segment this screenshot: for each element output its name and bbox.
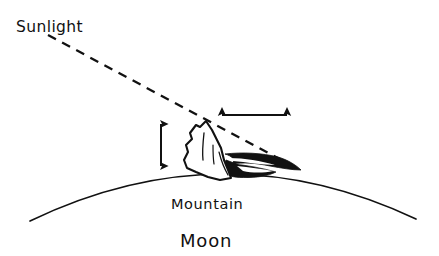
moon-mountain-shadow-diagram: Sunlight Mountain Moon	[0, 0, 439, 256]
diagram-canvas: Sunlight Mountain Moon	[0, 0, 439, 256]
label-mountain: Mountain	[171, 196, 243, 212]
label-moon: Moon	[180, 230, 232, 251]
sunlight-ray	[48, 35, 300, 170]
label-sunlight: Sunlight	[16, 18, 83, 36]
mountain-shadow	[225, 153, 301, 178]
